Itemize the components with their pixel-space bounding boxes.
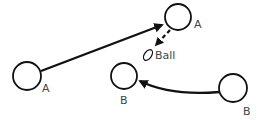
player-a-top-label: A (194, 18, 202, 31)
player-a-left-circle (13, 62, 41, 90)
pass-arrow (41, 25, 162, 71)
player-a-left-label: A (42, 82, 50, 95)
ball-drop-arrow (156, 30, 170, 45)
player-b-middle-label: B (120, 94, 128, 107)
diagram-canvas: A A B B Ball (0, 0, 263, 120)
player-a-top-circle (165, 4, 191, 30)
ball-label: Ball (155, 49, 175, 62)
ball-icon (142, 48, 155, 62)
player-b-right-label: B (243, 105, 251, 118)
player-b-middle-circle (111, 63, 137, 89)
run-arrow (140, 81, 219, 93)
player-b-right-circle (219, 74, 247, 102)
